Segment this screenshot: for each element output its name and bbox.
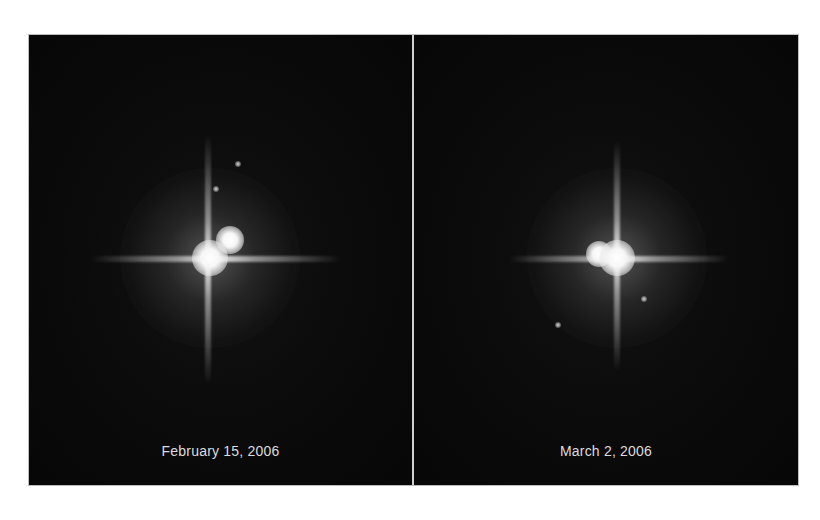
moon-dot — [555, 322, 561, 328]
image-panel-mar-2: March 2, 2006 — [414, 35, 798, 485]
moon-dot — [235, 161, 241, 167]
moon-dot — [213, 186, 219, 192]
pluto-body — [599, 240, 635, 276]
pluto-comparison-figure: February 15, 2006 March 2, 2006 — [28, 34, 799, 486]
pluto-body — [192, 240, 228, 276]
image-caption: February 15, 2006 — [29, 443, 412, 459]
moon-dot — [641, 296, 647, 302]
image-panel-feb-15: February 15, 2006 — [29, 35, 412, 485]
image-caption: March 2, 2006 — [414, 443, 798, 459]
